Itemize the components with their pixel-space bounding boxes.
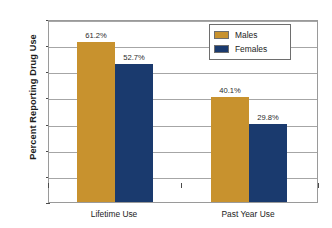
legend-label-males: Males [235,30,257,40]
legend-item-males: Males [214,28,286,42]
y-axis-title: Percent Reporting Drug Use [28,12,38,182]
bar-males-past-year-use: 40.1% [211,97,249,202]
plot-area: 61.2%52.7%40.1%29.8% Males Females [48,20,318,203]
bar-females-past-year-use: 29.8% [249,124,287,202]
bar-value-label: 61.2% [85,31,107,40]
legend-swatch-females-icon [214,45,229,53]
x-tick-mark [318,183,319,188]
bar-chart: Percent Reporting Drug Use 0102030405060… [0,0,332,228]
y-tick-mark [46,203,50,204]
legend-item-females: Females [214,42,286,56]
legend-label-females: Females [235,44,267,54]
x-tick-mark [48,183,49,188]
x-tick-label: Past Year Use [221,209,274,219]
x-tick-mark [181,183,182,188]
bar-value-label: 52.7% [123,53,145,62]
bar-value-label: 29.8% [257,113,279,122]
legend: Males Females [209,24,291,60]
bar-females-lifetime-use: 52.7% [115,64,153,202]
gridline [49,21,317,22]
x-tick-label: Lifetime Use [91,209,138,219]
legend-swatch-males-icon [214,31,229,39]
bar-value-label: 40.1% [219,86,241,95]
bar-males-lifetime-use: 61.2% [77,42,115,202]
